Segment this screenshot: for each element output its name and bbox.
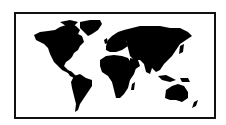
new-zealand [192, 100, 198, 108]
arctic-islands [60, 20, 78, 26]
north-america [34, 24, 84, 74]
australia [165, 84, 188, 102]
indonesia [158, 75, 176, 82]
south-america [71, 74, 92, 112]
japan [179, 44, 184, 54]
madagascar [131, 82, 135, 90]
new-guinea [180, 78, 190, 82]
greenland [80, 20, 102, 36]
world-map [0, 0, 226, 125]
uk [104, 38, 108, 44]
